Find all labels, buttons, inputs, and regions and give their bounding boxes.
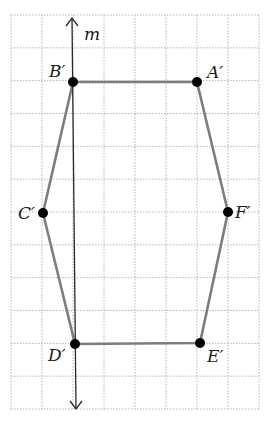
vertex-labels: A′ B′ C′ D′ E′ F′: [18, 61, 251, 366]
label-b-prime: B′: [48, 61, 65, 81]
line-of-reflection-m: m: [66, 18, 100, 409]
label-c-prime: C′: [18, 203, 35, 223]
vertex-point-e: [195, 338, 205, 348]
vertex-point-d: [70, 339, 80, 349]
label-f-prime: F′: [234, 202, 251, 222]
coordinate-grid-diagram: m A′ B′ C′ D′ E′ F′: [0, 0, 278, 427]
vertex-point-a: [192, 77, 202, 87]
label-e-prime: E′: [206, 346, 223, 366]
label-d-prime: D′: [47, 345, 66, 365]
label-a-prime: A′: [205, 62, 223, 82]
vertex-point-f: [223, 207, 233, 217]
vertex-point-b: [68, 77, 78, 87]
vertex-point-c: [38, 208, 48, 218]
axis-label-m: m: [84, 24, 100, 44]
